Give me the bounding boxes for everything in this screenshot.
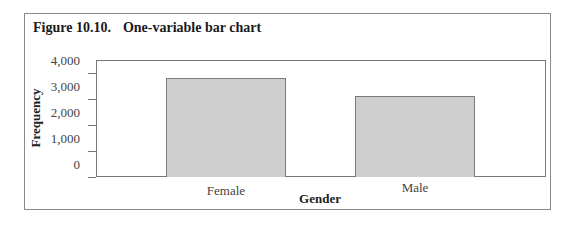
bar-male xyxy=(355,96,475,177)
figure-number: Figure 10.10. xyxy=(33,20,111,35)
y-tick-label: 2,000 xyxy=(36,105,80,121)
x-axis-title: Gender xyxy=(299,191,341,207)
y-tick xyxy=(88,151,96,152)
y-tick xyxy=(88,177,96,178)
bar-female xyxy=(166,78,286,177)
y-tick-label: 0 xyxy=(36,157,80,173)
y-tick-label: 4,000 xyxy=(36,53,80,69)
y-tick-label: 3,000 xyxy=(36,79,80,95)
y-tick xyxy=(88,73,96,74)
y-tick-label: 1,000 xyxy=(36,131,80,147)
plot-area xyxy=(96,60,546,177)
figure-title: One-variable bar chart xyxy=(123,20,261,35)
x-tick-label: Female xyxy=(207,183,245,199)
figure-caption: Figure 10.10.One-variable bar chart xyxy=(33,20,261,36)
x-tick-label: Male xyxy=(402,180,429,196)
y-tick xyxy=(88,125,96,126)
y-tick xyxy=(88,99,96,100)
